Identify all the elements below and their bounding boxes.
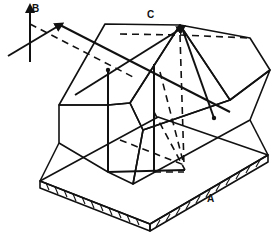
- label-a: A: [207, 193, 214, 204]
- label-b: B: [32, 3, 39, 14]
- crystal-face-front-left: [59, 105, 108, 172]
- label-c: C: [147, 9, 154, 20]
- crystal-optics-diagram: A B C: [0, 0, 278, 234]
- light-rays: [8, 8, 230, 172]
